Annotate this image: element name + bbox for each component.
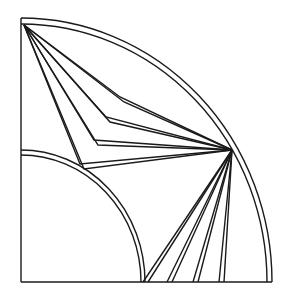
outer-shell-outer-arc: [21, 18, 272, 282]
diagram-svg: [0, 0, 289, 298]
core-inner-arc: [21, 155, 141, 282]
fan-1b-line: [148, 150, 232, 282]
ray-path-diagram: [0, 0, 289, 298]
core-outer-arc: [21, 150, 145, 282]
fan-ray-paths: [143, 150, 232, 282]
quadrant-frame: [21, 18, 272, 282]
fan-3b-line: [198, 150, 232, 282]
fan-2b-line: [172, 150, 232, 282]
shell-arcs: [21, 18, 272, 282]
